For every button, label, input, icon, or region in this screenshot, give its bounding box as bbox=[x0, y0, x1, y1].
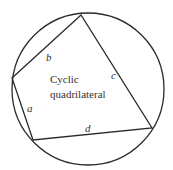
caption-line-1: Cyclic bbox=[50, 73, 79, 85]
caption-line-2: quadrilateral bbox=[50, 88, 106, 100]
side-label-a: a bbox=[27, 102, 33, 114]
cyclic-quadrilateral-diagram: b c a d Cyclic quadrilateral bbox=[0, 0, 173, 170]
side-label-d: d bbox=[85, 122, 91, 134]
side-label-b: b bbox=[46, 51, 52, 63]
side-label-c: c bbox=[111, 69, 116, 81]
quadrilateral bbox=[12, 15, 152, 140]
